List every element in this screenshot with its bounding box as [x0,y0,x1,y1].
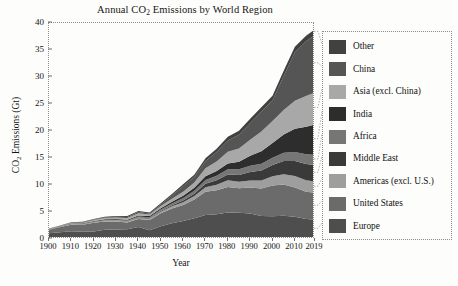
y-axis-title-pre: CO [11,160,21,173]
y-tick-mark [48,211,52,212]
x-tick-mark [93,238,94,241]
x-tick-label: 1940 [129,241,146,251]
legend-item[interactable]: Other [329,38,374,56]
legend-swatch [329,219,346,233]
y-tick-mark [48,49,52,50]
legend-label: Other [353,42,374,51]
legend-label: Africa [353,132,377,141]
x-tick-label: 1990 [241,241,258,251]
y-tick-mark [48,157,52,158]
x-tick-mark [294,238,295,241]
y-axis-ticks: 0510152025303540 [22,22,44,238]
legend-swatch [329,197,346,211]
chart-page: Annual CO2 Emissions by World Region CO2… [0,0,458,286]
x-tick-mark [272,238,273,241]
x-tick-mark [182,238,183,241]
x-tick-label: 1900 [39,241,56,251]
y-tick-label: 5 [24,206,44,216]
legend-item[interactable]: India [329,105,372,123]
legend-label: Europe [353,222,380,231]
legend-label: Middle East [353,154,398,163]
legend-swatch [329,85,346,99]
y-tick-label: 30 [24,71,44,81]
legend-swatch [329,40,346,54]
x-tick-mark [227,238,228,241]
leader-line [314,63,322,67]
legend-swatch [329,62,346,76]
x-tick-label: 2000 [263,241,280,251]
y-tick-label: 35 [24,44,44,54]
legend-label: Americas (excl. U.S.) [353,177,434,186]
plot-area [49,23,313,237]
legend-item[interactable]: Middle East [329,150,398,168]
x-tick-mark [137,238,138,241]
y-axis-title-post: Emissions (Gt) [11,97,21,157]
x-axis-title: Year [48,258,314,268]
y-tick-label: 40 [24,17,44,27]
y-tick-mark [48,130,52,131]
legend-item[interactable]: United States [329,195,403,213]
x-tick-label: 1930 [106,241,123,251]
leader-line [314,134,322,159]
legend-item[interactable]: Africa [329,128,377,146]
x-tick-mark [70,238,71,241]
x-tick-label: 1960 [174,241,191,251]
x-tick-mark [314,238,315,241]
x-tick-label: 1920 [84,241,101,251]
x-tick-mark [115,238,116,241]
y-axis-title: CO2 Emissions (Gt) [11,70,21,200]
chart-title-pre: Annual CO [97,4,146,15]
y-tick-label: 10 [24,179,44,189]
chart-title: Annual CO2 Emissions by World Region [48,4,322,15]
y-tick-label: 25 [24,98,44,108]
legend-swatch [329,107,346,121]
legend-swatch [329,174,346,188]
chart-title-post: Emissions by World Region [150,4,273,15]
legend-item[interactable]: China [329,60,375,78]
leader-line [314,89,322,108]
chart-legend: OtherChinaAsia (excl. China)IndiaAfricaM… [322,31,452,240]
y-tick-mark [48,184,52,185]
x-tick-label: 1910 [62,241,79,251]
leader-line [314,223,322,228]
x-axis-ticks: 1900191019201930194019501960197019801990… [48,241,314,254]
legend-swatch [329,130,346,144]
x-tick-label: 1950 [151,241,168,251]
x-tick-mark [160,238,161,241]
x-tick-mark [48,238,49,241]
y-tick-mark [48,76,52,77]
legend-item[interactable]: Europe [329,217,380,235]
x-tick-label: 1970 [196,241,213,251]
plot-frame [48,22,314,238]
leader-line [314,156,322,172]
leader-line [314,201,322,205]
legend-swatch [329,152,346,166]
chart-title-subscript: 2 [146,8,150,17]
y-tick-label: 15 [24,152,44,162]
legend-label: India [353,110,372,119]
legend-item[interactable]: Asia (excl. China) [329,83,421,101]
leader-line [314,31,322,44]
leader-line [314,178,322,186]
legend-item[interactable]: Americas (excl. U.S.) [329,172,434,190]
y-tick-label: 20 [24,125,44,135]
x-tick-mark [204,238,205,241]
x-tick-label: 2010 [285,241,302,251]
legend-label: United States [353,199,403,208]
x-tick-label: 1980 [218,241,235,251]
legend-label: China [353,65,375,74]
legend-label: Asia (excl. China) [353,87,421,96]
y-tick-mark [48,22,52,23]
x-tick-mark [249,238,250,241]
x-tick-label: 2019 [305,241,322,251]
leader-line [314,111,322,138]
y-tick-mark [48,103,52,104]
